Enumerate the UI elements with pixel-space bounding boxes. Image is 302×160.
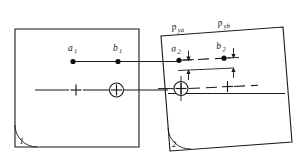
point-a2-label: a	[171, 43, 177, 53]
dimension-pya-subscript: ya	[176, 26, 185, 34]
technical-diagram-figure: 1 2 a 1 b	[0, 0, 302, 160]
point-a1-label: a	[68, 43, 73, 53]
dimension-pyb-subscript: yb	[222, 22, 231, 30]
point-a2-dot[interactable]	[176, 58, 181, 63]
point-b1-dot[interactable]	[115, 59, 120, 64]
point-b1-subscript: 1	[119, 47, 122, 54]
panel-1-number: 1	[20, 136, 24, 146]
point-b2-dot[interactable]	[221, 56, 226, 61]
diagram-canvas: 1 2 a 1 b	[0, 0, 302, 160]
circled-plus-left-group[interactable]	[110, 83, 124, 97]
point-b2-label: b	[216, 41, 222, 51]
point-a1-dot[interactable]	[70, 59, 75, 64]
point-a1-subscript: 1	[74, 47, 77, 54]
point-b1-label: b	[113, 43, 118, 53]
